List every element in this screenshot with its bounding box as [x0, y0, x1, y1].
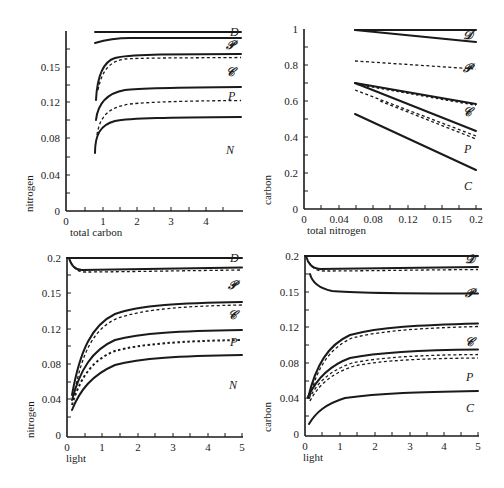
region-label-D: 𝒟 — [465, 252, 477, 266]
x-tick-label: 1 — [99, 441, 105, 453]
x-axis-label: light — [66, 452, 86, 464]
y-tick-label: 0.2 — [284, 167, 298, 179]
y-tick-label: 0.6 — [284, 95, 298, 107]
curve-D-lower — [355, 30, 476, 42]
region-label-D: D — [229, 251, 239, 265]
y-axis-label: carbon — [261, 175, 273, 205]
y-tick-label: 0.2 — [47, 252, 61, 264]
x-tick-label: 4 — [441, 440, 447, 452]
x-tick-label: 0.12 — [398, 213, 417, 225]
y-axis-label: carbon — [261, 402, 273, 432]
y-tick-label: 0.04 — [280, 392, 300, 404]
curve-Pscript — [95, 38, 241, 43]
y-tick-label: 0.08 — [42, 358, 62, 370]
figure: 0 0.04 0.08 0.12 0.15 0 1 2 3 4 total ca… — [0, 0, 504, 488]
x-tick-label: 3 — [168, 215, 174, 227]
y-tick-label: 0.08 — [41, 132, 61, 144]
y-tick-label: 1 — [293, 23, 299, 35]
y-tick-label: 0.08 — [280, 357, 300, 369]
curve-P-dashed — [72, 340, 242, 405]
curve-Cscript-dashed — [310, 327, 478, 397]
x-tick-label: 3 — [407, 440, 413, 452]
curve-C — [309, 391, 478, 424]
x-tick-label: 0.08 — [363, 213, 383, 225]
x-tick-label: 4 — [205, 441, 211, 453]
y-tick-label: 0 — [293, 203, 299, 215]
x-tick-label: 5 — [475, 440, 481, 452]
y-tick-label: 0.15 — [41, 61, 61, 73]
curve-Pscript — [69, 258, 242, 270]
curve-Pscript — [310, 274, 478, 294]
region-label-Cscript: 𝒞 — [463, 105, 475, 119]
x-axis-label: total nitrogen — [307, 224, 366, 236]
panel-top-left: 0 0.04 0.08 0.12 0.15 0 1 2 3 4 total ca… — [23, 25, 243, 238]
region-label-P: P — [463, 142, 472, 156]
region-label-Pscript: 𝒫 — [462, 61, 475, 75]
curve-Pscript-dashed — [355, 61, 476, 69]
curve-P-dashed-1 — [355, 90, 476, 136]
y-tick-label: 0 — [294, 428, 300, 440]
curve-N — [72, 355, 242, 410]
x-axis-label: total carbon — [70, 226, 123, 238]
region-label-N: N — [228, 378, 238, 392]
region-label-N: N — [225, 143, 235, 157]
region-label-Pscript: 𝒫 — [227, 278, 240, 292]
y-tick-label: 0.4 — [284, 131, 298, 143]
region-label-Cscript: 𝒞 — [226, 65, 238, 79]
x-tick-label: 4 — [203, 215, 209, 227]
x-tick-label: 2 — [134, 215, 140, 227]
region-label-C: C — [464, 179, 473, 193]
y-tick-label: 0.12 — [42, 323, 61, 335]
y-tick-label: 0.2 — [285, 250, 299, 262]
curve-Cscript — [96, 54, 241, 100]
curve-P — [355, 83, 476, 131]
x-axis-label: light — [303, 451, 323, 463]
y-tick-label: 0.04 — [41, 169, 61, 181]
y-tick-label: 0.04 — [42, 393, 62, 405]
curve-D-lower — [306, 256, 478, 269]
curve-C — [355, 114, 476, 170]
curve-Cscript-dashed — [98, 58, 241, 91]
x-tick-label: 0 — [63, 215, 69, 227]
region-label-P: P — [465, 370, 474, 384]
x-tick-label: 5 — [239, 441, 245, 453]
y-tick-label: 0.12 — [41, 96, 60, 108]
y-tick-label: 0.15 — [42, 287, 62, 299]
curve-P — [308, 350, 478, 398]
region-label-D: D — [229, 25, 239, 39]
y-tick-label: 0 — [55, 205, 61, 217]
y-tick-label: 0.15 — [280, 286, 300, 298]
x-tick-label: 3 — [170, 441, 176, 453]
y-tick-label: 0.8 — [284, 59, 298, 71]
panel-bottom-right: 0 0.04 0.08 0.12 0.15 0.2 0 1 2 3 4 5 li… — [261, 250, 481, 463]
panel-bottom-left: 0 0.04 0.08 0.12 0.15 0.2 0 1 2 3 4 5 li… — [24, 251, 245, 464]
curve-Cscript — [308, 324, 478, 399]
region-label-Pscript: 𝒫 — [225, 38, 238, 52]
curve-P — [72, 330, 242, 400]
y-axis-label: nitrogen — [24, 401, 36, 438]
x-tick-label: 0.2 — [469, 213, 483, 225]
x-tick-label: 1 — [337, 440, 343, 452]
y-tick-label: 0.12 — [280, 321, 299, 333]
y-axis-label: nitrogen — [23, 175, 35, 212]
curve-Cscript — [72, 302, 242, 395]
y-tick-label: 0 — [56, 429, 62, 441]
region-label-Cscript: 𝒞 — [465, 335, 477, 349]
curve-P — [96, 87, 241, 120]
x-tick-label: 0.15 — [432, 213, 452, 225]
region-label-P: P — [229, 335, 238, 349]
region-label-C: C — [466, 401, 475, 415]
x-tick-label: 2 — [372, 440, 378, 452]
x-tick-label: 2 — [135, 441, 141, 453]
region-label-Cscript: 𝒞 — [228, 308, 240, 322]
curve-N — [95, 117, 241, 153]
region-label-P: P — [227, 89, 236, 103]
panel-top-right: 0 0.2 0.4 0.6 0.8 1 0 0.04 0.08 0.12 0.1… — [261, 23, 483, 236]
